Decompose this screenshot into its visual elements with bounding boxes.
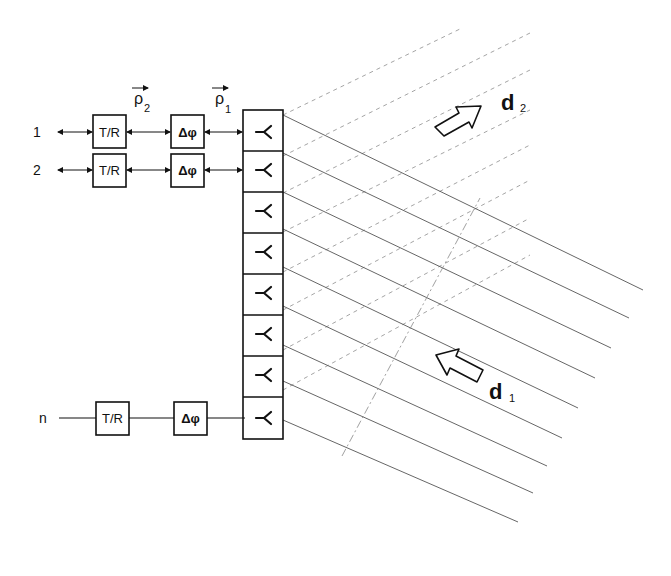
tr-module-n-label: T/R [102, 411, 123, 426]
channel-1 [58, 115, 242, 148]
svg-text:1: 1 [225, 103, 231, 115]
channel-n [59, 402, 245, 435]
d2-wavefront-lines [283, 28, 530, 390]
channel-2-label: 2 [33, 162, 41, 178]
svg-text:1: 1 [509, 392, 515, 404]
channel-1-label: 1 [33, 124, 41, 140]
svg-text:ρ: ρ [134, 90, 143, 107]
d1-wavefront-lines [283, 115, 643, 522]
svg-text:d: d [489, 379, 502, 404]
tr-module-2-label: T/R [99, 163, 120, 178]
phase-shifter-n-label: Δφ [181, 411, 200, 426]
tr-module-1-label: T/R [99, 125, 120, 140]
svg-text:2: 2 [144, 102, 150, 114]
rho1-vector-label: ρ 1 [212, 88, 231, 115]
d1-direction-arrow-icon [436, 349, 483, 382]
channel-2 [58, 154, 242, 187]
svg-text:ρ: ρ [215, 90, 224, 107]
antenna-array-column [243, 110, 283, 439]
d2-label: d 2 [501, 90, 526, 115]
d2-direction-arrow-icon [435, 106, 481, 136]
d1-label: d 1 [489, 379, 515, 404]
phased-array-diagram: 1 2 n T/R T/R T/R Δφ Δφ Δφ ρ 2 ρ 1 d 2 d… [0, 0, 671, 576]
channel-n-label: n [39, 410, 47, 426]
phase-shifter-2-label: Δφ [178, 163, 197, 178]
phase-shifter-1-label: Δφ [178, 125, 197, 140]
rho2-vector-label: ρ 2 [132, 88, 150, 114]
svg-text:d: d [501, 90, 514, 115]
svg-text:2: 2 [520, 102, 526, 114]
